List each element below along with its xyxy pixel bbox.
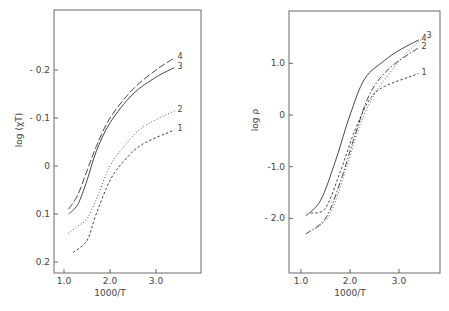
x-tick-label: 3.0 xyxy=(149,276,164,286)
series-label-2: 2 xyxy=(422,42,427,51)
series-label-1: 1 xyxy=(177,124,182,133)
series-line-3 xyxy=(69,68,175,214)
y-tick-label: - 2.0 xyxy=(265,213,286,223)
series-label-2: 2 xyxy=(177,105,182,114)
x-axis-label: 1000/T xyxy=(334,288,366,298)
plot-frame xyxy=(54,10,201,273)
series-label-3: 3 xyxy=(177,62,182,71)
plot-frame xyxy=(289,11,440,273)
x-tick-label: 3.0 xyxy=(392,276,407,286)
x-axis-label: 1000/T xyxy=(94,288,126,298)
series-label-1: 1 xyxy=(422,68,427,77)
y-tick-label: 0.2 xyxy=(36,257,50,267)
x-tick-label: 2.0 xyxy=(343,276,358,286)
y-tick-label: -1.0 xyxy=(267,162,285,172)
series-line-1 xyxy=(311,74,419,214)
x-tick-label: 1.0 xyxy=(57,276,72,286)
y-tick-label: 0 xyxy=(279,110,285,120)
series-label-4: 4 xyxy=(177,52,182,61)
y-tick-label: 0.1 xyxy=(36,209,50,219)
y-tick-label: - 0.2 xyxy=(30,65,50,75)
y-tick-label: 1.0 xyxy=(271,58,286,68)
y-axis-label: log (χT) xyxy=(14,113,24,147)
y-axis-label: log ρ xyxy=(250,109,260,132)
series-line-1 xyxy=(73,130,174,252)
x-tick-label: 2.0 xyxy=(103,276,118,286)
y-tick-label: - 0.1 xyxy=(30,113,50,123)
x-tick-label: 1.0 xyxy=(294,276,309,286)
series-line-4 xyxy=(306,40,419,216)
series-line-2 xyxy=(306,48,419,234)
series-line-3 xyxy=(316,37,424,228)
series-line-2 xyxy=(69,111,175,233)
chart-right-log-rho: 1.02.03.01.00-1.0- 2.01000/Tlog ρ4321 xyxy=(250,11,440,298)
y-tick-label: 0 xyxy=(44,161,50,171)
series-label-3: 3 xyxy=(427,31,432,40)
figure: 1.02.03.0- 0.2- 0.100.10.21000/Tlog (χT)… xyxy=(0,0,449,311)
chart-left-log-chi-t: 1.02.03.0- 0.2- 0.100.10.21000/Tlog (χT)… xyxy=(14,10,201,298)
